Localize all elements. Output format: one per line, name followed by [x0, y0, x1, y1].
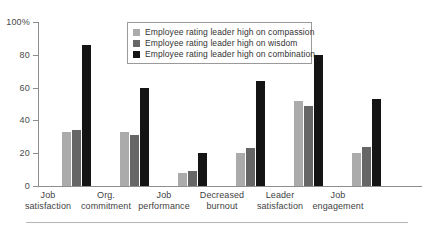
x-axis-label: Job engagement	[301, 190, 375, 211]
bar	[314, 55, 323, 186]
y-tick-label: 100%	[0, 18, 30, 27]
bar	[246, 148, 255, 186]
legend-swatch-icon	[133, 29, 140, 36]
bar	[120, 132, 129, 186]
bar	[198, 153, 207, 186]
bar	[140, 88, 149, 186]
bar	[178, 173, 187, 186]
legend-item: Employee rating leader high on wisdom	[133, 38, 306, 48]
bar	[82, 45, 91, 186]
x-axis-line	[38, 186, 422, 187]
bar-group	[338, 22, 394, 186]
y-tick-label: 20	[0, 149, 30, 158]
legend-item-label: Employee rating leader high on compassio…	[145, 27, 314, 37]
legend-item-label: Employee rating leader high on wisdom	[145, 38, 298, 48]
bar	[294, 101, 303, 186]
bar	[62, 132, 71, 186]
bar	[236, 153, 245, 186]
bar-chart: 100% 80 60 40 20 0 Job satisfaction Org.…	[0, 0, 430, 234]
chart-legend: Employee rating leader high on compassio…	[127, 22, 312, 64]
x-axis-label-line2: engagement	[301, 201, 375, 212]
y-tick-label: 40	[0, 116, 30, 125]
y-tick-label: 80	[0, 51, 30, 60]
x-axis-label-line1: Job	[301, 190, 375, 201]
footer-divider	[26, 222, 408, 223]
bar-group	[48, 22, 104, 186]
bar	[352, 153, 361, 186]
bar	[304, 106, 313, 186]
legend-swatch-icon	[133, 51, 140, 58]
legend-item-label: Employee rating leader high on combinati…	[145, 49, 315, 59]
bar	[372, 99, 381, 186]
legend-item: Employee rating leader high on compassio…	[133, 27, 306, 37]
legend-item: Employee rating leader high on combinati…	[133, 49, 306, 59]
bar	[188, 171, 197, 186]
bar	[362, 147, 371, 186]
bar	[256, 81, 265, 186]
bar	[130, 135, 139, 186]
legend-swatch-icon	[133, 40, 140, 47]
bar	[72, 130, 81, 186]
y-tick-label: 60	[0, 84, 30, 93]
